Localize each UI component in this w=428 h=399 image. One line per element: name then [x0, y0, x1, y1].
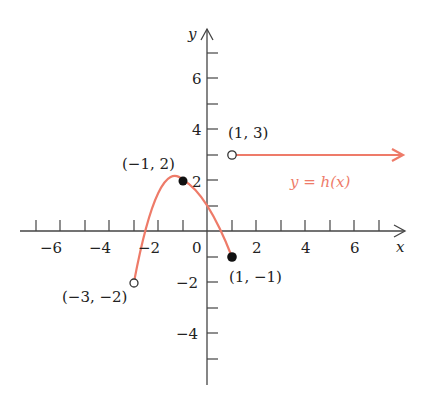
- point-label-m1-2: (−1, 2): [122, 155, 175, 173]
- closed-point-1-m1: [227, 252, 237, 262]
- closed-point-m1-2: [179, 177, 188, 186]
- y-tick-label: 4: [192, 121, 202, 139]
- open-point-1-3: [228, 151, 236, 159]
- y-tick-label: −2: [176, 274, 198, 292]
- x-tick-label: 0: [192, 239, 202, 257]
- y-tick-label: 2: [192, 173, 202, 191]
- x-axis: [20, 225, 405, 237]
- x-tick-label: −2: [138, 239, 160, 257]
- ray-segment: [236, 149, 403, 161]
- x-tick-label: 6: [350, 239, 360, 257]
- y-axis-label: y: [187, 25, 197, 43]
- function-label: y = h(x): [289, 173, 351, 191]
- y-tick-label: 6: [192, 70, 202, 88]
- y-tick-label: −4: [176, 325, 198, 343]
- point-label-1-3: (1, 3): [228, 124, 268, 142]
- point-label-1-m1: (1, −1): [229, 268, 282, 286]
- x-tick-label: −4: [89, 239, 111, 257]
- point-label-m3-m2: (−3, −2): [62, 288, 127, 306]
- open-point-m3-m2: [130, 279, 138, 287]
- x-axis-label: x: [396, 238, 405, 256]
- x-tick-label: 4: [301, 239, 311, 257]
- x-tick-label: −6: [40, 239, 62, 257]
- graph-of-h: y x −6 −4 −2 0 2 4 6 6 4 2 −2 −4 (−3, −2…: [0, 0, 428, 399]
- x-tick-label: 2: [252, 239, 262, 257]
